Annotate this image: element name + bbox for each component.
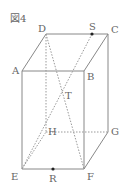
label-C: C	[111, 25, 119, 35]
label-A: A	[12, 66, 19, 76]
label-E: E	[11, 172, 18, 182]
label-S: S	[89, 22, 96, 32]
edge-FG	[84, 132, 108, 169]
label-D: D	[38, 24, 46, 34]
edge-DA	[22, 34, 46, 71]
rectangular-prism-diagram	[0, 0, 127, 192]
point-S	[90, 32, 93, 35]
label-R: R	[49, 174, 57, 184]
label-G: G	[111, 127, 119, 137]
label-F: F	[87, 172, 94, 182]
label-T: T	[65, 91, 72, 101]
label-B: B	[87, 72, 94, 82]
edge-EH	[22, 132, 46, 169]
label-H: H	[48, 127, 57, 137]
point-R	[51, 167, 54, 170]
line-DF	[46, 34, 84, 169]
edge-BC	[84, 34, 108, 71]
